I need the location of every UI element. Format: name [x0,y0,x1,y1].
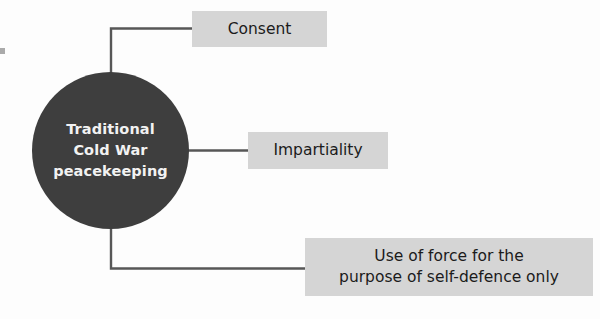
connector-to-consent [111,29,192,74]
hub-label: Traditional Cold War peacekeeping [45,119,176,182]
hub-label-line-3: peacekeeping [53,161,168,182]
node-use-of-force: Use of force for the purpose of self-def… [305,238,593,296]
connector-to-use-of-force [111,228,305,269]
hub-label-line-2: Cold War [53,140,168,161]
node-impartiality: Impartiality [248,132,388,169]
hub-node-traditional-cold-war-peacekeeping: Traditional Cold War peacekeeping [32,72,189,229]
node-impartiality-label: Impartiality [267,140,368,161]
node-consent: Consent [192,11,327,47]
peacekeeping-principles-diagram: Traditional Cold War peacekeeping Consen… [0,0,600,319]
node-use-of-force-label: Use of force for the purpose of self-def… [333,246,565,288]
node-consent-label: Consent [222,19,298,40]
scan-artifact-mark [0,48,5,54]
hub-label-line-1: Traditional [53,119,168,140]
